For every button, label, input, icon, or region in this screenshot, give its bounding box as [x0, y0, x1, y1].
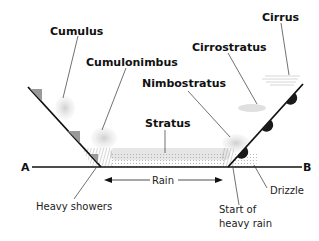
- label-nimbostratus: Nimbostratus: [142, 77, 227, 90]
- cumulonimbus-cloud: [91, 127, 117, 149]
- label-cumulonimbus: Cumulonimbus: [86, 56, 178, 69]
- arrow-left-icon: [104, 177, 112, 183]
- arrow-right-icon: [215, 177, 223, 183]
- label-heavy-showers: Heavy showers: [36, 201, 112, 212]
- label-point-b: B: [303, 161, 311, 174]
- cumulus-cloud: [55, 96, 75, 120]
- label-stratus: Stratus: [145, 117, 191, 130]
- label-cirrus: Cirrus: [262, 11, 300, 24]
- label-start-heavy-rain-line1: Start of: [219, 204, 257, 215]
- weather-front-diagram: Cumulus Cumulonimbus Nimbostratus Stratu…: [0, 0, 319, 241]
- label-drizzle: Drizzle: [270, 185, 304, 196]
- warm-front-semicircles: [237, 93, 297, 159]
- label-point-a: A: [21, 161, 30, 174]
- cold-front-triangle-icon: [68, 131, 80, 143]
- cirrostratus-cloud: [238, 104, 266, 112]
- rain-area: [112, 154, 224, 167]
- cirrus-cloud: [262, 76, 300, 85]
- label-start-heavy-rain-line2: heavy rain: [219, 218, 272, 229]
- label-rain: Rain: [152, 175, 174, 186]
- warm-front-semicircle-icon: [286, 93, 297, 105]
- label-cumulus: Cumulus: [50, 25, 104, 38]
- heavy-rain-area: [222, 148, 234, 167]
- label-cirrostratus: Cirrostratus: [192, 41, 267, 54]
- warm-front-semicircle-icon: [262, 120, 273, 132]
